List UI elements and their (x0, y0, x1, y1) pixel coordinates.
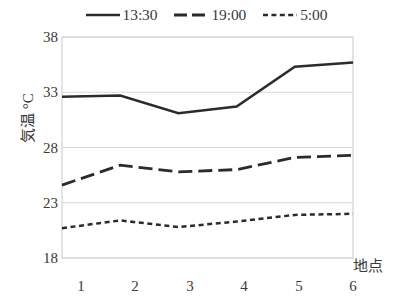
plot-area (0, 0, 413, 307)
temperature-line-chart: 13:30 19:00 5:00 気温 °C 地点 38 33 28 23 18… (0, 0, 413, 307)
